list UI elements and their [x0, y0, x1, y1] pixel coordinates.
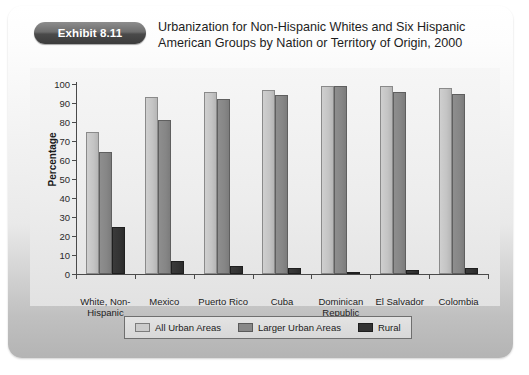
- y-tick-label: 50: [59, 174, 70, 185]
- x-tick-mark: [370, 274, 371, 279]
- exhibit-card: Exhibit 8.11 Urbanization for Non-Hispan…: [8, 6, 513, 358]
- y-axis-title: Percentage: [47, 133, 58, 187]
- legend-swatch: [135, 323, 150, 332]
- bar: [145, 97, 158, 274]
- bar: [86, 132, 99, 275]
- y-tick-label: 40: [59, 193, 70, 204]
- bar: [393, 92, 406, 274]
- chart-plot-area: 0102030405060708090100White, Non- Hispan…: [76, 84, 488, 274]
- bar: [204, 92, 217, 274]
- chart-plot-frame: Percentage 0102030405060708090100White, …: [30, 68, 500, 306]
- bar: [406, 270, 419, 274]
- bar-group: [194, 84, 253, 274]
- y-tick-label: 20: [59, 231, 70, 242]
- bar-group: [135, 84, 194, 274]
- legend-swatch: [238, 323, 253, 332]
- y-tick-label: 60: [59, 155, 70, 166]
- bar: [262, 90, 275, 274]
- bar: [275, 95, 288, 274]
- bar: [465, 268, 478, 274]
- bar: [99, 152, 112, 274]
- bar: [452, 94, 465, 275]
- exhibit-title: Urbanization for Non-Hispanic Whites and…: [158, 19, 503, 51]
- legend-label: All Urban Areas: [155, 322, 221, 333]
- bar: [171, 261, 184, 274]
- bar: [158, 120, 171, 274]
- legend-label: Larger Urban Areas: [258, 322, 341, 333]
- bar-group: [429, 84, 488, 274]
- y-tick-label: 100: [54, 79, 70, 90]
- chart-legend: All Urban AreasLarger Urban AreasRural: [124, 316, 412, 339]
- y-tick-label: 90: [59, 98, 70, 109]
- x-tick-mark: [311, 274, 312, 279]
- legend-item[interactable]: All Urban Areas: [135, 322, 221, 333]
- bar: [439, 88, 452, 274]
- bar: [347, 272, 360, 274]
- legend-swatch: [358, 323, 373, 332]
- x-tick-mark: [429, 274, 430, 279]
- x-tick-mark: [488, 274, 489, 279]
- bar: [288, 268, 301, 274]
- x-tick-mark: [253, 274, 254, 279]
- y-tick-label: 30: [59, 212, 70, 223]
- bar: [380, 86, 393, 274]
- y-tick-label: 10: [59, 250, 70, 261]
- x-axis-line: [76, 274, 489, 275]
- legend-item[interactable]: Larger Urban Areas: [238, 322, 341, 333]
- y-tick-label: 80: [59, 117, 70, 128]
- bar-group: [76, 84, 135, 274]
- bar: [112, 227, 125, 275]
- bar-group: [311, 84, 370, 274]
- bar-group: [253, 84, 312, 274]
- bar: [321, 86, 334, 274]
- bar: [334, 86, 347, 274]
- exhibit-badge: Exhibit 8.11: [34, 22, 146, 44]
- exhibit-header: Exhibit 8.11 Urbanization for Non-Hispan…: [8, 14, 513, 62]
- bar-group: [370, 84, 429, 274]
- legend-label: Rural: [378, 322, 401, 333]
- legend-item[interactable]: Rural: [358, 322, 401, 333]
- x-axis-label: Colombia: [423, 296, 494, 307]
- x-tick-mark: [194, 274, 195, 279]
- y-tick-label: 0: [65, 269, 70, 280]
- bar: [217, 99, 230, 274]
- x-tick-mark: [76, 274, 77, 279]
- y-tick-label: 70: [59, 136, 70, 147]
- x-tick-mark: [135, 274, 136, 279]
- bar: [230, 266, 243, 274]
